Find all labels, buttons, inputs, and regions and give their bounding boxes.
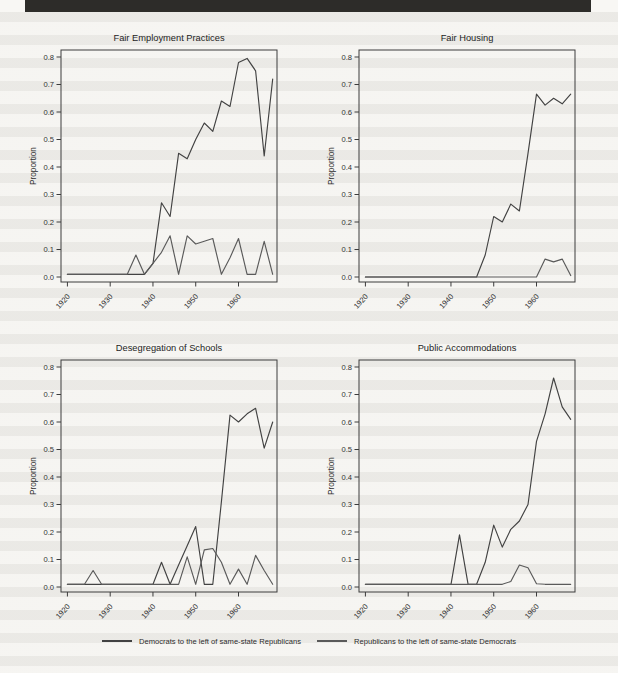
- svg-text:1960: 1960: [523, 602, 541, 621]
- svg-text:1950: 1950: [480, 292, 498, 311]
- chart-legend: Democrats to the left of same-state Repu…: [0, 633, 618, 649]
- svg-text:0.8: 0.8: [43, 53, 54, 62]
- svg-text:0.1: 0.1: [341, 245, 352, 254]
- svg-text:0.8: 0.8: [43, 363, 54, 372]
- svg-text:1960: 1960: [225, 602, 243, 621]
- svg-text:0.7: 0.7: [341, 80, 352, 89]
- svg-text:0.5: 0.5: [43, 135, 54, 144]
- svg-text:0.1: 0.1: [43, 245, 54, 254]
- svg-text:Proportion: Proportion: [29, 457, 38, 495]
- svg-text:0.0: 0.0: [341, 583, 352, 592]
- svg-text:Desegregation of Schools: Desegregation of Schools: [116, 343, 223, 353]
- svg-text:0.3: 0.3: [43, 500, 54, 509]
- svg-text:0.4: 0.4: [341, 163, 352, 172]
- svg-text:1960: 1960: [225, 292, 243, 311]
- scanned-page: { "page": { "background_color": "#f8f7f4…: [0, 0, 618, 673]
- chart-fair-housing: Fair HousingProportion0.00.10.20.30.40.5…: [325, 26, 615, 326]
- legend-item: Democrats to the left of same-state Repu…: [102, 637, 301, 646]
- svg-text:1940: 1940: [437, 292, 455, 311]
- svg-text:1940: 1940: [437, 602, 455, 621]
- chart-public-accommodations: Public AccommodationsProportion0.00.10.2…: [325, 336, 615, 636]
- svg-text:0.8: 0.8: [341, 363, 352, 372]
- svg-text:0.6: 0.6: [43, 418, 54, 427]
- republicans-line-swatch-icon: [317, 640, 347, 642]
- svg-text:0.4: 0.4: [341, 473, 352, 482]
- svg-text:0.6: 0.6: [341, 108, 352, 117]
- svg-text:0.0: 0.0: [43, 583, 54, 592]
- svg-text:1930: 1930: [395, 292, 413, 311]
- svg-text:1950: 1950: [480, 602, 498, 621]
- svg-text:1920: 1920: [352, 292, 370, 311]
- chart-svg: Fair HousingProportion0.00.10.20.30.40.5…: [325, 26, 615, 326]
- svg-text:0.2: 0.2: [341, 528, 352, 537]
- svg-text:0.1: 0.1: [341, 555, 352, 564]
- svg-text:0.3: 0.3: [341, 190, 352, 199]
- svg-text:Fair Employment Practices: Fair Employment Practices: [113, 33, 224, 43]
- svg-text:1960: 1960: [523, 292, 541, 311]
- svg-text:Fair Housing: Fair Housing: [441, 33, 494, 43]
- democrats-line-swatch-icon: [102, 640, 132, 642]
- svg-text:0.0: 0.0: [341, 273, 352, 282]
- svg-text:1950: 1950: [182, 602, 200, 621]
- chart-desegregation-of-schools: Desegregation of SchoolsProportion0.00.1…: [27, 336, 317, 636]
- svg-text:1940: 1940: [139, 292, 157, 311]
- svg-text:0.2: 0.2: [43, 528, 54, 537]
- chart-svg: Desegregation of SchoolsProportion0.00.1…: [27, 336, 317, 636]
- svg-text:Public Accommodations: Public Accommodations: [418, 343, 517, 353]
- svg-text:Proportion: Proportion: [327, 147, 336, 185]
- svg-text:0.2: 0.2: [43, 218, 54, 227]
- svg-text:0.3: 0.3: [341, 500, 352, 509]
- svg-text:1930: 1930: [97, 292, 115, 311]
- svg-text:0.6: 0.6: [43, 108, 54, 117]
- svg-text:0.3: 0.3: [43, 190, 54, 199]
- svg-text:1920: 1920: [54, 602, 72, 621]
- svg-text:0.7: 0.7: [43, 80, 54, 89]
- svg-text:1920: 1920: [352, 602, 370, 621]
- chart-fair-employment-practices: Fair Employment PracticesProportion0.00.…: [27, 26, 317, 326]
- svg-text:Proportion: Proportion: [29, 147, 38, 185]
- legend-item: Republicans to the left of same-state De…: [317, 637, 516, 646]
- svg-text:0.5: 0.5: [43, 445, 54, 454]
- svg-text:1930: 1930: [395, 602, 413, 621]
- chart-svg: Fair Employment PracticesProportion0.00.…: [27, 26, 317, 326]
- legend-item-label: Democrats to the left of same-state Repu…: [139, 637, 301, 646]
- svg-text:1930: 1930: [97, 602, 115, 621]
- svg-text:0.8: 0.8: [341, 53, 352, 62]
- svg-text:0.1: 0.1: [43, 555, 54, 564]
- page-top-bar: [25, 0, 591, 12]
- chart-svg: Public AccommodationsProportion0.00.10.2…: [325, 336, 615, 636]
- svg-text:1950: 1950: [182, 292, 200, 311]
- svg-text:0.2: 0.2: [341, 218, 352, 227]
- svg-text:0.5: 0.5: [341, 445, 352, 454]
- svg-text:0.4: 0.4: [43, 473, 54, 482]
- svg-text:0.7: 0.7: [341, 390, 352, 399]
- svg-text:0.5: 0.5: [341, 135, 352, 144]
- svg-text:0.4: 0.4: [43, 163, 54, 172]
- svg-text:0.7: 0.7: [43, 390, 54, 399]
- svg-text:Proportion: Proportion: [327, 457, 336, 495]
- legend-item-label: Republicans to the left of same-state De…: [354, 637, 516, 646]
- svg-text:1920: 1920: [54, 292, 72, 311]
- svg-text:0.0: 0.0: [43, 273, 54, 282]
- svg-text:0.6: 0.6: [341, 418, 352, 427]
- svg-text:1940: 1940: [139, 602, 157, 621]
